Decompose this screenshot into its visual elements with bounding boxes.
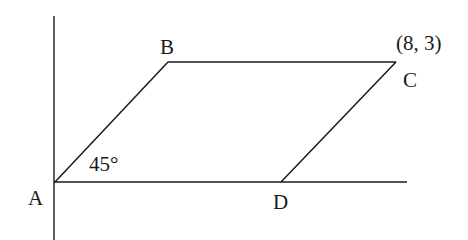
point-label-d: D	[273, 192, 288, 213]
point-label-c: C	[403, 70, 417, 91]
segment-cd	[281, 62, 396, 182]
coordinate-label-c: (8, 3)	[396, 33, 442, 54]
point-label-a: A	[28, 188, 43, 209]
point-label-b: B	[160, 37, 174, 58]
angle-label-a: 45°	[89, 154, 118, 175]
